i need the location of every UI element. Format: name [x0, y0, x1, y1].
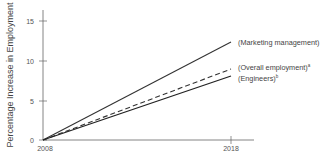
- y-axis-label: Percentage Increase in Employment: [5, 2, 15, 148]
- line-overall-employment: [43, 69, 231, 140]
- label-marketing-management: (Marketing management): [238, 38, 320, 47]
- footnote-a: a: [308, 63, 311, 68]
- footnote-b: b: [276, 74, 279, 79]
- y-tick-5: 5: [30, 98, 34, 105]
- x-tick-2018: 2018: [223, 145, 239, 152]
- y-ticks: 0 5 10 15: [26, 18, 47, 144]
- y-tick-10: 10: [26, 58, 34, 65]
- line-chart: Percentage Increase in Employment 0 5 10…: [0, 0, 328, 157]
- label-overall-employment: (Overall employment)a: [238, 63, 311, 72]
- x-tick-2008: 2008: [37, 145, 53, 152]
- line-marketing-management: [43, 42, 231, 140]
- y-tick-0: 0: [30, 137, 34, 144]
- x-ticks: 2008 2018: [37, 136, 239, 152]
- y-tick-15: 15: [26, 18, 34, 25]
- series-lines: [43, 42, 231, 140]
- line-engineers: [43, 76, 231, 140]
- label-engineers: (Engineers)b: [238, 74, 279, 83]
- series-labels: (Marketing management) (Overall employme…: [238, 38, 320, 83]
